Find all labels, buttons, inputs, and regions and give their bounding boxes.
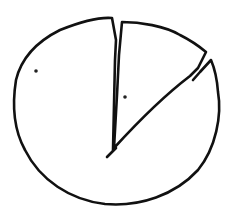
exploded-slice-marker-dot: [123, 95, 127, 99]
pie-sketch: [0, 0, 232, 216]
center-vertex-tick: [107, 148, 116, 157]
main-slice-marker-dot: [34, 69, 38, 73]
exploded-pie-slice: [114, 22, 206, 148]
